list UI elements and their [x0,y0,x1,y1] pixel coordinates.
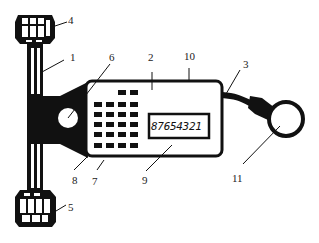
callout-1: 1 [70,52,76,63]
display-reading: 87654321 [151,120,202,133]
callout-7: 7 [92,176,98,187]
callout-4: 4 [68,15,74,26]
callout-10: 10 [184,51,195,62]
callout-5: 5 [68,202,74,213]
callout-11: 11 [232,173,243,184]
callout-2: 2 [148,52,154,63]
callout-9: 9 [142,175,148,186]
cord [222,95,275,120]
callout-8: 8 [72,175,78,186]
bottom-knob [15,190,56,227]
ring [269,102,303,136]
top-knob [15,15,55,44]
callout-3: 3 [243,59,249,70]
callout-6: 6 [109,52,115,63]
